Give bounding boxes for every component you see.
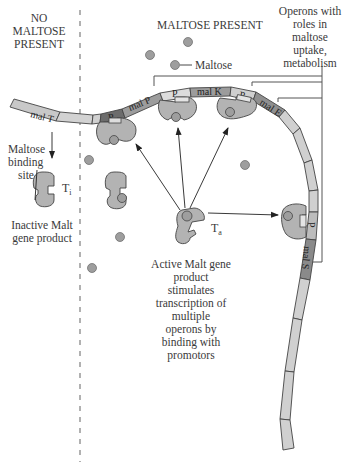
binding-site-label: Maltose binding site — [8, 143, 45, 182]
inactive-line-1: Inactive Malt — [4, 219, 80, 232]
active-line-8: promotors — [150, 349, 232, 362]
segment-mal-k: mal K — [197, 86, 222, 97]
maltose-molecules — [85, 38, 250, 273]
segment-mal-s: mal S — [300, 246, 313, 270]
segment-p4: P — [306, 222, 317, 228]
maltose-label: Maltose — [195, 59, 232, 72]
active-label: Active Malt gene product stimulates tran… — [150, 258, 232, 362]
active-line-1: Active Malt gene — [150, 258, 232, 271]
arrows — [35, 128, 278, 215]
binding-site-line-2: binding — [8, 156, 45, 169]
bound-protein-p1 — [97, 118, 136, 145]
ti-subscript: i — [69, 188, 71, 197]
bound-protein-p4 — [282, 204, 306, 239]
active-line-3: stimulates — [150, 284, 232, 297]
operons-line-5: metabolism — [268, 57, 352, 70]
protein-binding-maltose — [105, 172, 126, 209]
ta-subscript: a — [218, 228, 222, 237]
active-protein-ta — [176, 208, 205, 244]
operons-line-2: roles in — [268, 18, 352, 31]
active-line-6: operons by — [150, 323, 232, 336]
ta-label: Ta — [211, 222, 222, 239]
active-line-4: transcription of — [150, 297, 232, 310]
active-line-5: multiple — [150, 310, 232, 323]
active-line-2: product — [150, 271, 232, 284]
operons-line-1: Operons with — [268, 5, 352, 18]
no-maltose-line-3: PRESENT — [2, 38, 76, 51]
inactive-label: Inactive Malt gene product — [4, 219, 80, 245]
active-line-7: binding with — [150, 336, 232, 349]
segment-mal-e: mal E — [258, 96, 284, 118]
operons-label: Operons with roles in maltose uptake, me… — [268, 5, 352, 70]
operons-line-3: maltose — [268, 31, 352, 44]
bound-protein-p2 — [158, 97, 196, 122]
bound-protein-p3 — [217, 95, 256, 119]
ti-label: Ti — [62, 182, 72, 199]
binding-site-line-3: site — [8, 169, 45, 182]
inactive-line-2: gene product — [4, 232, 80, 245]
binding-site-line-1: Maltose — [8, 143, 45, 156]
no-maltose-line-2: MALTOSE — [2, 25, 76, 38]
operons-line-4: uptake, — [268, 44, 352, 57]
maltose-present-heading: MALTOSE PRESENT — [140, 19, 280, 32]
no-maltose-line-1: NO — [2, 12, 76, 25]
no-maltose-heading: NO MALTOSE PRESENT — [2, 12, 76, 51]
